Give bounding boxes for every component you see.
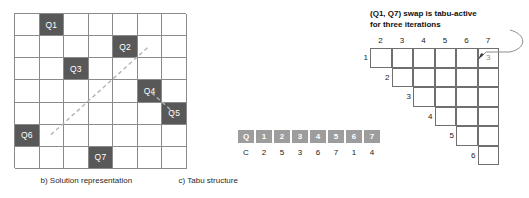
queen-label: Q5 (162, 109, 186, 118)
solution-value-cell: 6 (310, 146, 326, 158)
board-cell (138, 125, 163, 147)
queen-cell: Q5 (162, 103, 187, 125)
queen-cell: Q4 (138, 80, 163, 102)
tabu-cell-value: 3 (479, 54, 499, 62)
board-cell (162, 80, 187, 102)
tabu-cell (478, 146, 500, 166)
solution-header-cell: 2 (274, 130, 290, 143)
queen-label: Q1 (40, 20, 64, 29)
tabu-cell (456, 48, 478, 68)
board-cell (113, 125, 138, 147)
board-cell (162, 14, 187, 36)
solution-value-cell: 5 (274, 146, 290, 158)
board-cell (64, 14, 89, 36)
board-cell (89, 36, 114, 58)
board-cell (138, 14, 163, 36)
tabu-annotation-line2: for three iterations (370, 20, 441, 29)
tabu-cell (478, 107, 500, 127)
board-cell (89, 58, 114, 80)
tabu-row-label: 1 (354, 48, 368, 67)
solution-value-cell: 3 (292, 146, 308, 158)
tabu-cell (435, 68, 457, 88)
queen-label: Q4 (138, 87, 162, 96)
tabu-cell (370, 48, 392, 68)
board-cell (40, 58, 65, 80)
board-cell (162, 125, 187, 147)
board-cell (15, 147, 40, 169)
board-cell (113, 58, 138, 80)
board-cell (89, 103, 114, 125)
board-cell (64, 125, 89, 147)
queen-cell: Q2 (113, 36, 138, 58)
tabu-row-label: 6 (462, 146, 476, 165)
queen-cell: Q7 (89, 147, 114, 169)
chessboard-grid: Q1Q2Q3Q4Q5Q6Q7 (14, 13, 186, 168)
tabu-annotation-line1: (Q1, Q7) swap is tabu-active (370, 9, 477, 18)
board-cell (15, 103, 40, 125)
tabu-cell (413, 48, 435, 68)
board-cell (64, 80, 89, 102)
tabu-cell (435, 87, 457, 107)
queen-label: Q3 (64, 65, 88, 74)
queen-label: Q2 (113, 42, 137, 51)
board-cell (40, 125, 65, 147)
tabu-row-label: 4 (419, 107, 433, 126)
solution-value-cell: 2 (256, 146, 272, 158)
board-cell (89, 14, 114, 36)
tabu-cell (392, 68, 414, 88)
tabu-cell (413, 87, 435, 107)
board-cell (113, 80, 138, 102)
board-cell (64, 36, 89, 58)
tabu-cell (478, 87, 500, 107)
tabu-column-label: 4 (413, 36, 434, 45)
solution-value-cell: C (238, 146, 254, 158)
tabu-column-label: 5 (435, 36, 456, 45)
board-cell (15, 80, 40, 102)
tabu-cell (456, 68, 478, 88)
queen-cell: Q1 (40, 14, 65, 36)
board-cell (40, 80, 65, 102)
solution-header-cell: 5 (328, 130, 344, 143)
board-cell (89, 80, 114, 102)
board-cell (15, 36, 40, 58)
tabu-cell (478, 126, 500, 146)
queen-label: Q7 (89, 153, 113, 162)
board-cell (138, 147, 163, 169)
board-cell (40, 147, 65, 169)
solution-header-cell: Q (238, 130, 254, 143)
tabu-cell (456, 87, 478, 107)
tabu-column-label: 2 (370, 36, 391, 45)
board-cell (138, 103, 163, 125)
tabu-column-label: 6 (456, 36, 477, 45)
tabu-row-label: 2 (376, 68, 390, 87)
board-cell (113, 14, 138, 36)
board-cell (40, 36, 65, 58)
queen-label: Q6 (15, 131, 39, 140)
tabu-cell (478, 68, 500, 88)
tabu-column-label: 7 (478, 36, 499, 45)
board-cell (64, 147, 89, 169)
tabu-cell (413, 68, 435, 88)
queen-cell: Q6 (15, 125, 40, 147)
board-cell (162, 58, 187, 80)
tabu-cell (456, 126, 478, 146)
solution-header-cell: 3 (292, 130, 308, 143)
tabu-cell (435, 48, 457, 68)
board-cell (15, 14, 40, 36)
board-cell (162, 36, 187, 58)
tabu-cell (392, 48, 414, 68)
board-cell (162, 147, 187, 169)
tabu-annotation: (Q1, Q7) swap is tabu-active for three i… (370, 8, 516, 30)
tabu-cell-active: 3 (478, 48, 500, 68)
caption-panel-c: c) Tabu structure (179, 176, 238, 185)
chessboard-panel: Q1Q2Q3Q4Q5Q6Q7 (14, 13, 186, 168)
board-cell (138, 36, 163, 58)
board-cell (64, 103, 89, 125)
tabu-cell (435, 107, 457, 127)
board-cell (113, 147, 138, 169)
tabu-structure-panel: (Q1, Q7) swap is tabu-active for three i… (360, 8, 528, 168)
board-cell (40, 103, 65, 125)
board-cell (89, 125, 114, 147)
caption-panel-b: b) Solution representation (41, 176, 133, 185)
tabu-cell (456, 107, 478, 127)
